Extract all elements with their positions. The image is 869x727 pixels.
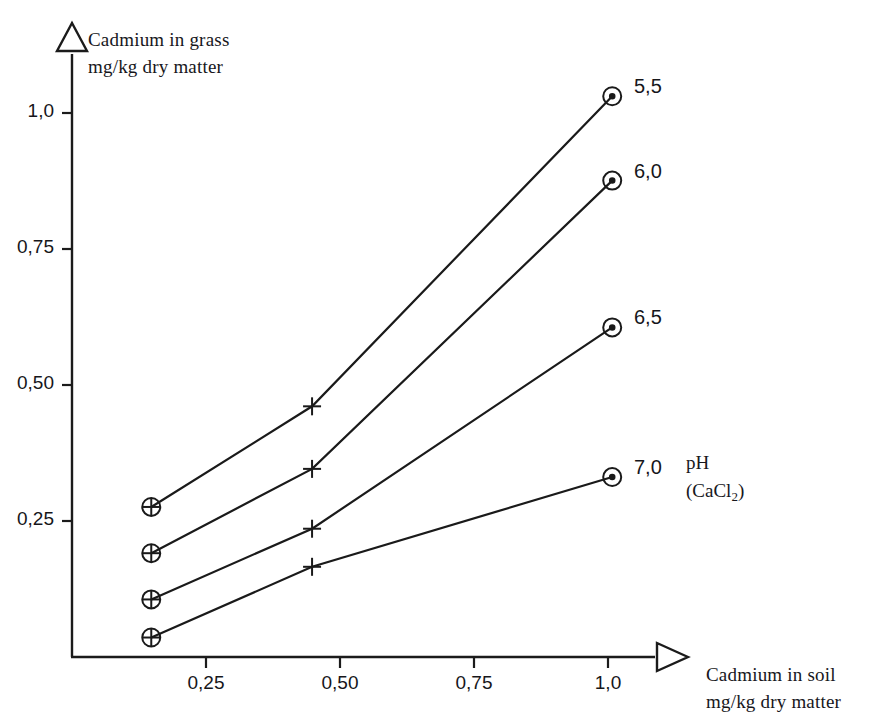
series-line-5-5 xyxy=(151,96,612,507)
y-axis-title-line1: Cadmium in grass xyxy=(88,26,229,53)
y-tick-label-4: 0,25 xyxy=(0,508,54,530)
series-label-6-5: 6,5 xyxy=(634,306,662,329)
y-tick-label-2: 0,75 xyxy=(0,236,54,258)
x-tick-label-1: 0,25 xyxy=(166,672,246,694)
legend-title: pH xyxy=(686,449,744,477)
x-tick-label-2: 0,50 xyxy=(300,672,380,694)
x-axis-ticks xyxy=(206,657,608,668)
caption-fragment xyxy=(0,719,300,727)
y-tick-label-3: 0,50 xyxy=(0,372,54,394)
chart-figure: Cadmium in grass mg/kg dry matter Cadmiu… xyxy=(0,0,869,727)
series-label-6-0: 6,0 xyxy=(634,160,662,183)
x-tick-label-4: 1,0 xyxy=(568,672,648,694)
series-markers-6-0 xyxy=(142,172,621,563)
triangle-right-icon xyxy=(657,643,688,671)
x-axis-title: Cadmium in soil mg/kg dry matter xyxy=(706,661,841,715)
series-label-5-5: 5,5 xyxy=(634,75,662,98)
series-markers-5-5 xyxy=(142,87,621,516)
x-tick-label-3: 0,75 xyxy=(434,672,514,694)
y-axis-title: Cadmium in grass mg/kg dry matter xyxy=(88,26,229,80)
y-axis-ticks xyxy=(62,113,72,521)
y-tick-label-1: 1,0 xyxy=(0,100,54,122)
legend-subtitle-open: (CaCl xyxy=(686,480,731,501)
chart-plot-area xyxy=(0,0,869,727)
legend-subtitle-close: ) xyxy=(738,480,744,501)
x-axis-title-line1: Cadmium in soil xyxy=(706,661,841,688)
x-axis-title-line2: mg/kg dry matter xyxy=(706,688,841,715)
y-axis-title-line2: mg/kg dry matter xyxy=(88,53,229,80)
series-label-7-0: 7,0 xyxy=(634,456,662,479)
series-line-7-0 xyxy=(151,477,612,638)
series-markers-6-5 xyxy=(142,318,621,608)
legend-subtitle: (CaCl2) xyxy=(686,477,744,511)
triangle-up-icon xyxy=(57,23,87,51)
legend: pH (CaCl2) xyxy=(686,449,744,511)
